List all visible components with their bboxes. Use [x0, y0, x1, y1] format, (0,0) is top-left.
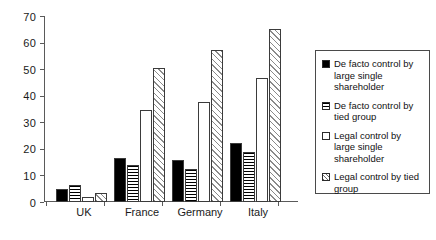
y-axis-tick-label: 10	[23, 170, 36, 181]
bar	[56, 189, 68, 202]
bar-group	[114, 16, 170, 202]
y-axis-tick: 30	[40, 122, 44, 123]
y-axis-tick-label: 70	[23, 11, 36, 22]
y-axis-tick-label: 20	[23, 144, 36, 155]
legend-item[interactable]: De facto control by tied group	[322, 100, 424, 123]
bar	[198, 102, 210, 202]
bar	[211, 50, 223, 202]
bar	[82, 197, 94, 202]
bar	[172, 160, 184, 202]
bar	[127, 165, 139, 202]
bar	[140, 110, 152, 202]
y-axis-tick: 70	[40, 16, 44, 17]
y-axis-tick-label: 50	[23, 64, 36, 75]
legend-swatch-icon	[322, 173, 330, 181]
legend-item[interactable]: Legal control by large single shareholde…	[322, 130, 424, 165]
legend-item-label: De facto control by large single shareho…	[334, 58, 424, 93]
legend-item-label: De facto control by tied group	[334, 100, 424, 123]
bar	[114, 158, 126, 202]
y-axis-tick: 20	[40, 149, 44, 150]
legend-item-label: Legal control by large single shareholde…	[334, 130, 424, 165]
bar-group	[172, 16, 228, 202]
y-axis-line	[44, 16, 45, 202]
y-axis-tick: 40	[40, 96, 44, 97]
y-axis-tick-label: 30	[23, 117, 36, 128]
legend-swatch-icon	[322, 132, 330, 140]
bar-group	[56, 16, 112, 202]
y-axis-tick-label: 60	[23, 38, 36, 49]
y-axis-tick-label: 40	[23, 91, 36, 102]
y-axis-tick: 10	[40, 175, 44, 176]
x-axis-tick	[46, 202, 47, 206]
bar	[153, 68, 165, 202]
bar	[269, 29, 281, 202]
bar	[243, 152, 255, 202]
x-axis-category-label: Italy	[222, 206, 294, 218]
bar	[185, 169, 197, 202]
bar	[95, 193, 107, 202]
bar	[69, 185, 81, 202]
bar	[230, 143, 242, 202]
y-axis-tick: 60	[40, 43, 44, 44]
legend-swatch-icon	[322, 102, 330, 110]
y-axis-tick-label: 0	[30, 197, 36, 208]
bar	[256, 78, 268, 202]
plot-area: 010203040506070 UKFranceGermanyItaly	[44, 16, 298, 202]
legend: De facto control by large single shareho…	[315, 50, 430, 194]
legend-item[interactable]: De facto control by large single shareho…	[322, 58, 424, 93]
y-axis-tick: 0	[40, 202, 44, 203]
legend-item[interactable]: Legal control by tied group	[322, 171, 424, 194]
bar-group	[230, 16, 286, 202]
bar-chart: 010203040506070 UKFranceGermanyItaly De …	[0, 0, 436, 240]
y-axis-tick: 50	[40, 69, 44, 70]
legend-item-label: Legal control by tied group	[334, 171, 424, 194]
legend-swatch-icon	[322, 60, 330, 68]
